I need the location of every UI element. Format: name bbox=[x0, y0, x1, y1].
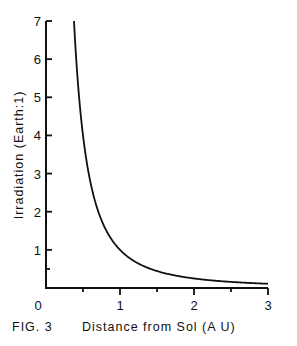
y-axis-title: Irradiation (Earth:1) bbox=[12, 91, 26, 220]
x-axis-title: Distance from Sol (A U) bbox=[82, 320, 236, 334]
x-tick-label: 2 bbox=[190, 298, 197, 313]
x-tick-label: 1 bbox=[116, 298, 123, 313]
y-tick-label: 1 bbox=[34, 243, 41, 258]
axes bbox=[45, 21, 268, 288]
y-tick-label: 4 bbox=[34, 128, 41, 143]
y-tick-label: 3 bbox=[34, 167, 41, 182]
figure-caption: FIG. 3 bbox=[12, 320, 53, 334]
chart: 12345670123 Irradiation (Earth:1) FIG. 3… bbox=[0, 0, 297, 346]
x-tick-label: 3 bbox=[264, 298, 271, 313]
y-tick-label: 2 bbox=[34, 205, 41, 220]
ticks bbox=[46, 21, 268, 295]
y-tick-label: 7 bbox=[34, 14, 41, 29]
tick-labels: 12345670123 bbox=[34, 14, 272, 313]
series bbox=[74, 21, 268, 284]
series-line bbox=[74, 21, 268, 284]
y-tick-label: 6 bbox=[34, 52, 41, 67]
y-tick-label: 5 bbox=[34, 90, 41, 105]
x-tick-label: 0 bbox=[34, 298, 41, 313]
